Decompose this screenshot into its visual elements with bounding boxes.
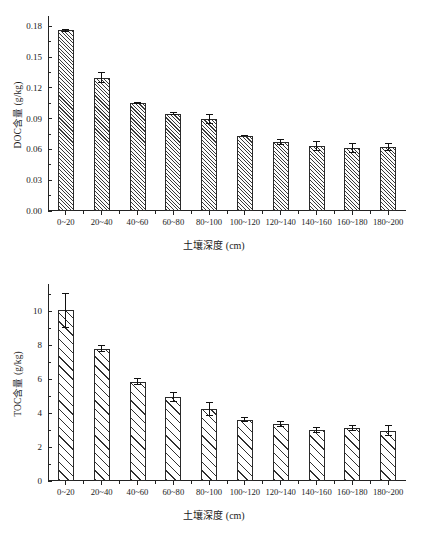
error-bar-cap-top <box>277 139 284 140</box>
x-tick-label: 100~120 <box>230 217 260 227</box>
x-tick-label: 60~80 <box>162 487 184 497</box>
error-bar-cap-bottom <box>313 150 320 151</box>
error-bar-cap-top <box>385 425 392 426</box>
error-bar-cap-bottom <box>62 31 69 32</box>
x-tick-mark <box>280 481 281 485</box>
bar-doc-7[interactable] <box>309 146 325 211</box>
y-minor-tick-mark <box>48 362 51 363</box>
x-tick-mark <box>352 211 353 215</box>
x-minor-tick-mark <box>298 211 299 214</box>
chart-panel-doc: DOC含量 (g/kg) 0.000.030.060.090.120.150.1… <box>0 0 428 270</box>
x-minor-tick-mark <box>155 481 156 484</box>
error-bar-cap-top <box>62 29 69 30</box>
bar-doc-4[interactable] <box>201 119 217 211</box>
bar-doc-0[interactable] <box>58 30 74 211</box>
bar-doc-6[interactable] <box>273 142 289 211</box>
x-tick-label: 80~100 <box>196 217 222 227</box>
x-tick-mark <box>173 211 174 215</box>
error-bar-cap-top <box>349 143 356 144</box>
bar-doc-2[interactable] <box>130 103 146 211</box>
y-axis-line-toc <box>48 284 49 481</box>
y-tick-label: 0 <box>38 475 43 487</box>
error-bar-cap-bottom <box>349 152 356 153</box>
error-bar-cap-top <box>277 421 284 422</box>
y-tick-label: 8 <box>38 339 43 351</box>
y-tick-mark <box>48 87 52 88</box>
y-minor-tick-mark <box>48 328 51 329</box>
error-bar-cap-bottom <box>206 415 213 416</box>
y-tick-label: 0.06 <box>26 143 42 155</box>
error-bar-cap-top <box>313 427 320 428</box>
bar-toc-4[interactable] <box>201 409 217 481</box>
x-tick-label: 180~200 <box>373 487 403 497</box>
x-tick-mark <box>316 481 317 485</box>
y-minor-tick-mark <box>48 164 51 165</box>
x-minor-tick-mark <box>83 211 84 214</box>
y-tick-label: 0.09 <box>26 113 42 125</box>
error-bar-cap-top <box>313 141 320 142</box>
x-tick-label: 40~60 <box>127 217 149 227</box>
bar-doc-3[interactable] <box>165 114 181 212</box>
bar-toc-6[interactable] <box>273 424 289 481</box>
y-tick-label: 0.03 <box>26 174 42 186</box>
bar-toc-7[interactable] <box>309 430 325 481</box>
x-minor-tick-mark <box>334 481 335 484</box>
x-tick-label: 160~180 <box>337 217 367 227</box>
x-tick-mark <box>316 211 317 215</box>
x-tick-label: 180~200 <box>373 217 403 227</box>
x-minor-tick-mark <box>370 481 371 484</box>
error-bar-cap-bottom <box>170 401 177 402</box>
x-tick-mark <box>244 481 245 485</box>
error-bar-cap-top <box>98 345 105 346</box>
x-minor-tick-mark <box>298 481 299 484</box>
x-tick-label: 0~20 <box>57 487 75 497</box>
y-tick-mark <box>48 180 52 181</box>
bar-toc-5[interactable] <box>237 420 253 481</box>
error-bar-cap-top <box>62 293 69 294</box>
bar-toc-8[interactable] <box>344 428 360 481</box>
y-axis-title-toc: TOC含量 (g/kg) <box>9 285 23 482</box>
error-bar-cap-top <box>385 143 392 144</box>
x-minor-tick-mark <box>334 211 335 214</box>
y-tick-mark <box>48 379 52 380</box>
error-bar-cap-bottom <box>349 430 356 431</box>
x-tick-mark <box>209 481 210 485</box>
bar-toc-1[interactable] <box>94 349 110 481</box>
error-bar-cap-top <box>170 392 177 393</box>
error-bar-cap-top <box>206 114 213 115</box>
y-minor-tick-mark <box>48 41 51 42</box>
x-minor-tick-mark <box>119 481 120 484</box>
bar-toc-2[interactable] <box>130 382 146 481</box>
x-tick-mark <box>209 211 210 215</box>
y-minor-tick-mark <box>48 103 51 104</box>
x-tick-label: 0~20 <box>57 217 75 227</box>
bar-toc-3[interactable] <box>165 397 181 481</box>
error-bar-cap-top <box>134 378 141 379</box>
y-tick-label: 0.15 <box>26 51 42 63</box>
y-tick-mark <box>48 311 52 312</box>
x-tick-mark <box>65 481 66 485</box>
x-minor-tick-mark <box>227 211 228 214</box>
bar-toc-0[interactable] <box>58 310 74 481</box>
x-tick-mark <box>280 211 281 215</box>
figure-root: DOC含量 (g/kg) 0.000.030.060.090.120.150.1… <box>0 0 428 540</box>
y-tick-mark <box>48 118 52 119</box>
y-minor-tick-mark <box>48 430 51 431</box>
y-tick-label: 2 <box>38 441 43 453</box>
bar-doc-8[interactable] <box>344 148 360 211</box>
x-tick-mark <box>352 481 353 485</box>
bar-doc-9[interactable] <box>380 147 396 211</box>
y-minor-tick-mark <box>48 134 51 135</box>
error-bar-cap-bottom <box>313 432 320 433</box>
error-bar-cap-bottom <box>62 327 69 328</box>
y-tick-mark <box>48 413 52 414</box>
bar-doc-5[interactable] <box>237 136 253 211</box>
x-tick-label: 120~140 <box>265 487 295 497</box>
bar-toc-9[interactable] <box>380 431 396 481</box>
y-tick-label: 4 <box>38 407 43 419</box>
y-tick-mark <box>48 149 52 150</box>
error-bar-cap-bottom <box>98 351 105 352</box>
x-tick-mark <box>137 211 138 215</box>
error-bar-cap-bottom <box>170 114 177 115</box>
bar-doc-1[interactable] <box>94 78 110 211</box>
